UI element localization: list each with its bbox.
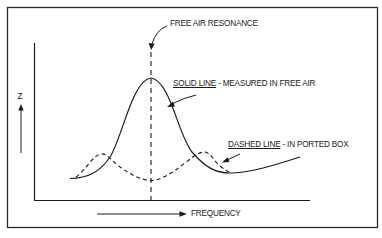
solid-line-legend: SOLID LINE - MEASURED IN FREE AIR: [173, 80, 315, 88]
frequency-arrow-head-icon: [180, 211, 188, 217]
impedance-diagram: FREE AIR RESONANCE SOLID LINE - MEASURED…: [0, 0, 382, 238]
dashed-curve-ported-box: [76, 152, 232, 181]
solid-pointer-arrow-shaft: [172, 95, 196, 104]
x-axis-label: FREQUENCY: [191, 210, 241, 218]
diagram-canvas: [0, 0, 382, 238]
z-arrow-head-icon: [18, 104, 23, 111]
solid-line-key: SOLID LINE: [173, 79, 216, 88]
dashed-line-description: - IN PORTED BOX: [280, 140, 348, 149]
dashed-line-legend: DASHED LINE - IN PORTED BOX: [228, 141, 348, 149]
resonance-label: FREE AIR RESONANCE: [170, 20, 258, 28]
resonance-pointer-arrow-head-icon: [149, 43, 155, 50]
solid-line-description: - MEASURED IN FREE AIR: [216, 79, 315, 88]
resonance-pointer-arrow-shaft: [152, 26, 167, 44]
outer-frame: [8, 8, 378, 228]
dashed-pointer-arrow-shaft: [227, 154, 240, 160]
dashed-pointer-arrow-head-icon: [222, 157, 230, 162]
y-axis-label: Z: [18, 93, 23, 101]
solid-curve-free-air: [70, 78, 300, 179]
dashed-line-key: DASHED LINE: [228, 140, 280, 149]
